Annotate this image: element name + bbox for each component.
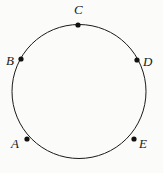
point-dot-d xyxy=(134,57,139,62)
point-dot-b xyxy=(18,56,23,61)
point-dot-c xyxy=(75,22,80,27)
circle-outline xyxy=(12,25,146,159)
point-dot-a xyxy=(24,136,29,141)
point-label-b: B xyxy=(6,54,14,67)
circle-diagram-figure: ABCDE xyxy=(0,0,163,173)
point-label-c: C xyxy=(74,3,83,16)
point-label-d: D xyxy=(143,55,152,68)
point-dot-e xyxy=(131,136,136,141)
point-label-a: A xyxy=(11,137,19,150)
point-label-e: E xyxy=(139,137,147,150)
